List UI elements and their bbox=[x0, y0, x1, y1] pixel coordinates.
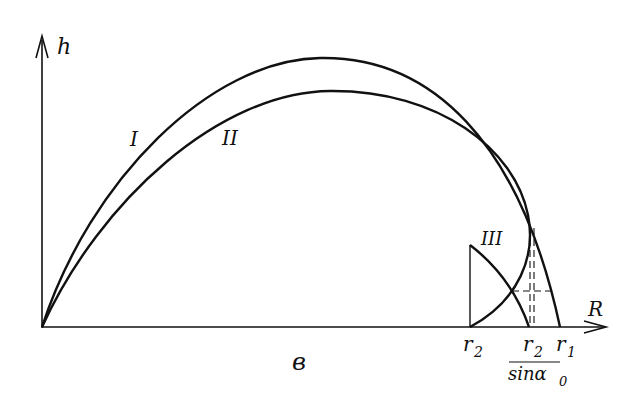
x-axis-label: R bbox=[587, 297, 603, 321]
r2-label: r 2 bbox=[463, 332, 483, 360]
r1-label: r 1 bbox=[556, 332, 576, 360]
trajectory-diagram: h R I II III в r 2 r 2 sinα 0 r 1 bbox=[0, 0, 641, 399]
svg-text:r: r bbox=[556, 332, 567, 356]
axes bbox=[36, 36, 606, 333]
curve-II-label: II bbox=[221, 126, 239, 150]
y-axis-label: h bbox=[57, 34, 71, 59]
curve-II bbox=[42, 91, 530, 327]
svg-text:2: 2 bbox=[533, 344, 543, 360]
svg-text:r: r bbox=[463, 332, 474, 356]
svg-text:1: 1 bbox=[567, 344, 576, 360]
svg-text:0: 0 bbox=[559, 374, 567, 389]
curve-III-label: III bbox=[480, 228, 503, 249]
svg-text:2: 2 bbox=[473, 344, 483, 360]
b-label: в bbox=[292, 348, 306, 376]
curve-I-label: I bbox=[129, 127, 139, 151]
svg-text:r: r bbox=[523, 332, 534, 356]
curve-III bbox=[470, 245, 529, 327]
svg-text:sinα: sinα bbox=[508, 363, 547, 384]
curve-III-arc bbox=[470, 245, 529, 327]
curve-I bbox=[42, 58, 560, 327]
